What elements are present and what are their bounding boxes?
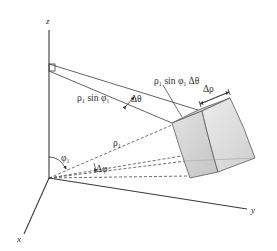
rho-sin-phi-label: ρ₁ sin φ₁ [77,93,110,103]
arc-label-leader [163,85,182,117]
spherical-volume-element-diagram: z x y ρ₁ sin φ₁ Δθ ρ₁ sin φ₁ Δθ Δρ ρ₁ φ₁… [0,0,277,251]
x-axis-label: x [16,234,21,244]
y-axis [49,178,247,209]
rho-sin-phi-delta-theta-label: ρ₁ sin φ₁ Δθ [154,76,200,86]
x-axis [24,178,49,234]
delta-phi-label: Δφ [96,164,108,174]
delta-rho-label: Δρ [203,84,214,94]
volume-element-cube [172,98,255,178]
radius-lines [49,64,198,123]
z-axis-label: z [45,16,50,26]
phi-label: φ₁ [61,153,70,163]
rho-label: ρ₁ [113,138,121,148]
delta-theta-label: Δθ [131,94,142,104]
y-axis-label: y [250,205,255,215]
